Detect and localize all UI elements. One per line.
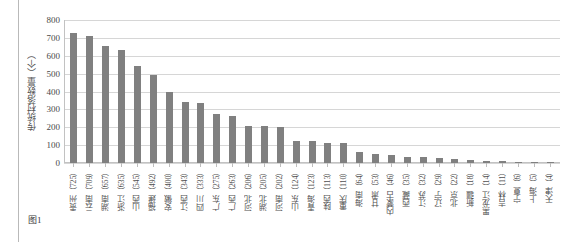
x-label-slot: 河北（206） <box>241 168 257 230</box>
x-tick-slot <box>511 163 527 167</box>
bar-slot <box>209 20 225 163</box>
x-axis-tick-mark <box>280 163 281 167</box>
x-tick-slot <box>542 163 558 167</box>
bar <box>86 36 93 163</box>
x-tick-slot <box>479 163 495 167</box>
bar-slot <box>82 20 98 163</box>
x-tick-slot <box>447 163 463 167</box>
x-axis-tick-mark <box>296 163 297 167</box>
x-tick-slot <box>320 163 336 167</box>
x-axis-category-label: 黑龙江（14） <box>483 168 491 215</box>
bar-slot <box>272 20 288 163</box>
x-axis-tick-mark <box>550 163 551 167</box>
x-axis-tick-mark <box>73 163 74 167</box>
bar <box>309 141 316 163</box>
x-axis-tick-mark <box>502 163 503 167</box>
x-axis-tick-mark <box>216 163 217 167</box>
y-axis-tick-label: 100 <box>47 141 61 150</box>
bar <box>118 50 125 164</box>
x-tick-slot <box>352 163 368 167</box>
y-axis-tick-label: 0 <box>56 159 61 168</box>
x-axis-category-label: 甘肃（53） <box>372 168 380 207</box>
x-axis-category-label: 青海（123） <box>308 168 316 211</box>
x-axis-category-label: 山东（124） <box>292 168 300 211</box>
x-axis-tick-mark <box>375 163 376 167</box>
x-tick-slot <box>304 163 320 167</box>
x-label-slot: 河南（202） <box>272 168 288 230</box>
x-axis-tick-mark <box>248 163 249 167</box>
x-axis-category-label: 内蒙古（46） <box>387 168 395 215</box>
bar <box>340 143 347 163</box>
x-label-slot: 江苏（32） <box>415 168 431 230</box>
bar-slot <box>145 20 161 163</box>
x-axis-tick-mark <box>312 163 313 167</box>
bar <box>372 154 379 163</box>
x-tick-slot <box>66 163 82 167</box>
x-axis-category-label: 上海（5） <box>530 168 538 203</box>
bar-slot <box>257 20 273 163</box>
x-label-slot: 重庆（110） <box>336 168 352 230</box>
x-axis-tick-mark <box>359 163 360 167</box>
x-axis-category-label: 福建（492） <box>149 168 157 211</box>
x-axis-category-label: 浙江（635） <box>118 168 126 211</box>
bar-slot <box>511 20 527 163</box>
x-label-slot: 黑龙江（14） <box>479 168 495 230</box>
bar-slot <box>415 20 431 163</box>
x-axis-tick-mark <box>264 163 265 167</box>
x-axis-category-label: 湖北（205） <box>260 168 268 211</box>
x-axis-tick-mark <box>153 163 154 167</box>
y-axis-tick-label: 200 <box>47 123 61 132</box>
bar <box>213 114 220 163</box>
bar-slot <box>479 20 495 163</box>
x-axis-category-label: 广西（263） <box>229 168 237 211</box>
x-tick-slot <box>415 163 431 167</box>
x-tick-slot <box>209 163 225 167</box>
x-axis-category-label: 云南（709） <box>86 168 94 211</box>
bar-slot <box>399 20 415 163</box>
bar-series <box>64 20 560 163</box>
x-axis-tick-mark <box>534 163 535 167</box>
x-axis-tick-mark <box>391 163 392 167</box>
x-label-slot: 甘肃（53） <box>368 168 384 230</box>
x-label-slot: 广西（263） <box>225 168 241 230</box>
x-axis-tick-mark <box>518 163 519 167</box>
bar-slot <box>225 20 241 163</box>
x-label-slot: 吉林（11） <box>495 168 511 230</box>
x-axis-tick-mark <box>439 163 440 167</box>
x-label-slot: 山西（545） <box>130 168 146 230</box>
bar <box>70 33 77 163</box>
x-tick-slot <box>336 163 352 167</box>
bar <box>134 66 141 163</box>
x-tick-slot <box>241 163 257 167</box>
x-label-slot: 安徽（400） <box>161 168 177 230</box>
bar <box>102 46 109 163</box>
bar-slot <box>130 20 146 163</box>
y-axis-tick-label: 300 <box>47 105 61 114</box>
bar <box>182 102 189 163</box>
bar <box>245 126 252 163</box>
x-label-slot: 上海（5） <box>526 168 542 230</box>
bar <box>261 126 268 163</box>
x-axis-category-label: 新疆（18） <box>467 168 475 207</box>
x-tick-slot <box>526 163 542 167</box>
x-tick-slot <box>495 163 511 167</box>
x-label-slot: 山东（124） <box>288 168 304 230</box>
x-axis-tick-mark <box>423 163 424 167</box>
bar <box>229 116 236 163</box>
x-label-slot: 海南（64） <box>352 168 368 230</box>
bar-slot <box>542 20 558 163</box>
x-tick-slot <box>193 163 209 167</box>
x-axis-category-labels: 贵州（725）云南（709）湖南（657）浙江（635）山西（545）福建（49… <box>64 168 560 230</box>
x-tick-slot <box>114 163 130 167</box>
x-axis-category-label: 辽宁（29） <box>435 168 443 207</box>
bar-slot <box>336 20 352 163</box>
x-label-slot: 宁夏（6） <box>511 168 527 230</box>
x-tick-slot <box>288 163 304 167</box>
x-axis-category-label: 宁夏（6） <box>514 168 522 203</box>
x-axis-category-label: 贵州（725） <box>70 168 78 211</box>
bar-slot <box>384 20 400 163</box>
x-axis-tick-mark <box>454 163 455 167</box>
bar-slot <box>288 20 304 163</box>
x-tick-slot <box>145 163 161 167</box>
x-tick-slot <box>82 163 98 167</box>
